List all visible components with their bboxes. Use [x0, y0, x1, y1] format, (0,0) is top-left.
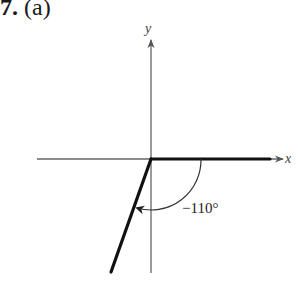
angle-diagram: y x −110° [0, 0, 298, 291]
angle-label: −110° [182, 200, 218, 216]
terminal-side-ray [111, 159, 151, 272]
x-axis-label: x [284, 151, 292, 166]
y-axis-label: y [143, 21, 152, 36]
